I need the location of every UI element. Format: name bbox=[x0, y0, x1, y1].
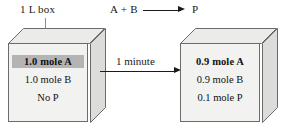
species-row: 0.9 mole B bbox=[194, 73, 246, 86]
box-front-face: 1.0 mole A 1.0 mole B No P bbox=[8, 43, 88, 122]
species-row: 0.1 mole P bbox=[194, 91, 245, 104]
right-arrow-icon bbox=[143, 4, 187, 15]
box-front-face: 0.9 mole A 0.9 mole B 0.1 mole P bbox=[180, 43, 260, 122]
box-side-face bbox=[262, 28, 282, 124]
box-side-face bbox=[90, 28, 110, 124]
reaction-equation: A + B P bbox=[110, 3, 198, 15]
container-volume-label: 1 L box bbox=[20, 3, 55, 15]
reaction-diagram: 1 L box A + B P 1.0 mole A 1.0 mole B No… bbox=[0, 0, 288, 133]
species-row: 1.0 mole B bbox=[22, 73, 74, 86]
species-row: 1.0 mole A bbox=[12, 55, 84, 68]
species-row: No P bbox=[34, 91, 61, 104]
species-row: 0.9 mole A bbox=[193, 55, 247, 68]
equation-reactants: A + B bbox=[110, 3, 138, 15]
equation-product: P bbox=[192, 3, 198, 15]
final-state-box: 0.9 mole A 0.9 mole B 0.1 mole P bbox=[180, 28, 282, 124]
transition-arrow-icon bbox=[100, 66, 182, 76]
initial-state-box: 1.0 mole A 1.0 mole B No P bbox=[8, 28, 110, 124]
